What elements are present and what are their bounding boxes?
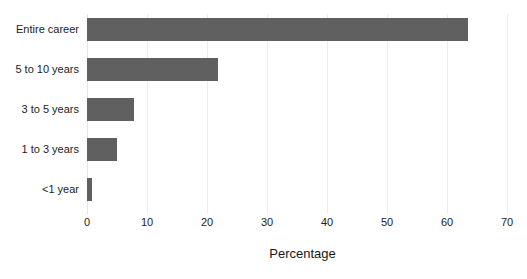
y-axis-tick-label: Entire career	[0, 23, 79, 35]
x-axis-tick-label: 40	[321, 216, 333, 228]
gridline-60	[447, 14, 448, 214]
bar	[87, 138, 117, 161]
gridline-50	[387, 14, 388, 214]
bar-chart: Entire career5 to 10 years3 to 5 years1 …	[0, 0, 527, 279]
x-axis-tick-label: 10	[141, 216, 153, 228]
gridline-20	[207, 14, 208, 214]
bar	[87, 58, 218, 81]
gridline-40	[327, 14, 328, 214]
x-axis-tick-label: 70	[501, 216, 513, 228]
y-axis-tick-label: <1 year	[0, 183, 79, 195]
bar	[87, 98, 134, 121]
plot-area	[87, 14, 507, 214]
x-axis-tick-label: 20	[201, 216, 213, 228]
x-axis-tick-label: 50	[381, 216, 393, 228]
bar	[87, 18, 468, 41]
x-axis-tick-label: 60	[441, 216, 453, 228]
gridline-70	[507, 14, 508, 214]
y-axis-tick-label: 5 to 10 years	[0, 63, 79, 75]
bar	[87, 178, 92, 201]
gridline-30	[267, 14, 268, 214]
gridline-10	[147, 14, 148, 214]
y-axis-tick-label: 1 to 3 years	[0, 143, 79, 155]
x-axis: 010203040506070	[87, 216, 507, 232]
x-axis-tick-label: 30	[261, 216, 273, 228]
x-axis-title: Percentage	[0, 246, 527, 261]
x-axis-tick-label: 0	[84, 216, 90, 228]
x-axis-title-label: Percentage	[269, 246, 336, 261]
y-axis-tick-label: 3 to 5 years	[0, 103, 79, 115]
